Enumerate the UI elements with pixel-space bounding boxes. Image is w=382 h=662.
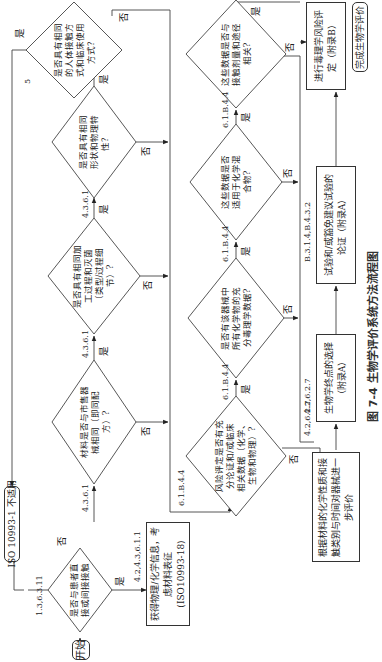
q-process-text: 是否具有相同加工过程和灭菌（类型/过程细节）? — [70, 244, 118, 308]
yes-contact-type: 是 — [14, 28, 26, 38]
ref-route: 6.1.B.4.4 — [220, 92, 232, 128]
iso-not-applicable-terminal: ISO 10993-1 不适用 — [4, 486, 20, 562]
ref-contact: 1.3,6.3.11 — [34, 575, 46, 616]
ref-contact-type: 5 — [22, 79, 34, 84]
q-contact-type-text: 是否具有相同的人体接触方式和临床使用方式？ — [54, 22, 96, 78]
flowchart-rotated: 开始 ISO 10993-1 不适用 获得物理/化学信息，考虑材料表征(ISO1… — [0, 0, 382, 662]
q-geometry-text: 是否具有相同形状和物理特性？ — [76, 112, 112, 172]
ref-endpoints: 4.2,6.2.7 — [302, 378, 314, 414]
no-mixture: 否 — [282, 168, 294, 178]
no-tox: 否 — [282, 304, 294, 314]
start-terminal: 开始 — [72, 640, 90, 660]
start-label: 开始 — [75, 640, 87, 660]
q-risk-text: 风险评定是否有充分论证和/或临床相关数据（化学、生物和物理）? — [210, 420, 262, 492]
iso-not-applicable-label: ISO 10993-1 不适用 — [6, 480, 18, 567]
yes-mixture: 是 — [240, 112, 252, 122]
q-mixture-text: 这些数据是否适用于化学混合物? — [222, 152, 250, 212]
ref-tox: 6.1.B.4.4 — [220, 364, 232, 400]
yes-geometry: 是 — [98, 74, 110, 84]
yes-tox: 是 — [240, 246, 252, 256]
tox-risk-box: 进行毒理学风险评定（附录B） — [306, 2, 346, 90]
yes-contact: 是 — [114, 576, 126, 586]
no-contact-type: 否 — [118, 12, 130, 22]
ref-tests: B.3.1.4,B.4.3.2 — [302, 202, 314, 262]
no-material: 否 — [140, 426, 152, 436]
further-evaluation-box: 根据材料的化学性质和接触类别与时间对器械进一步评价 — [312, 452, 360, 562]
no-risk: 否 — [288, 454, 300, 464]
yes-process: 是 — [98, 204, 110, 214]
endpoints-label: 生物学终点的选择（附录A） — [323, 339, 349, 417]
no-route: 否 — [284, 42, 296, 52]
yes-risk: 是 — [240, 384, 252, 394]
no-process: 否 — [142, 280, 154, 290]
yes-material: 是 — [98, 346, 110, 356]
end-label: 完成生物学评价 — [354, 6, 366, 69]
ref-risk: 6.1.B.4.4 — [176, 470, 188, 506]
ref-geometry: 4.3.6.1 — [80, 190, 92, 218]
q-material-text: 材料是否与市售器械相同（即同配方）? — [76, 386, 114, 458]
tests-box: 试验和/或豁免建议试验的论证（附录A） — [316, 166, 356, 284]
end-terminal: 完成生物学评价 — [352, 2, 368, 72]
ref-get-info: 4.2,4.3,6.1.1 — [132, 531, 144, 582]
ref-mixture: 6.1.B.4.4 — [220, 226, 232, 262]
q-contact-text: 是否与患者直接或间接接触 — [66, 562, 94, 618]
figure-caption: 图 7-4 生物学评价系统方法流程图 — [364, 251, 380, 422]
no-contact: 否 — [56, 536, 68, 546]
get-info-box: 获得物理/化学信息，考虑材料表征(ISO10993-18) — [146, 522, 190, 626]
ref-material: 4.3.6.1 — [80, 484, 92, 512]
tox-risk-label: 进行毒理学风险评定（附录B） — [313, 7, 339, 85]
figure-page: 开始 ISO 10993-1 不适用 获得物理/化学信息，考虑材料表征(ISO1… — [0, 0, 382, 662]
flow-lines — [0, 0, 382, 662]
tests-label: 试验和/或豁免建议试验的论证（附录A） — [323, 171, 349, 279]
further-evaluation-label: 根据材料的化学性质和接触类别与时间对器械进一步评价 — [317, 457, 356, 557]
yes-route: 是 — [250, 6, 262, 16]
no-geometry: 否 — [140, 146, 152, 156]
ref-process: 4.3.6.1 — [80, 330, 92, 358]
endpoints-box: 生物学终点的选择（附录A） — [316, 334, 356, 422]
q-route-text: 这些数据是否与接触剂量和途径相关? — [218, 22, 254, 86]
get-info-label: 获得物理/化学信息，考虑材料表征(ISO10993-18) — [149, 527, 188, 621]
q-tox-text: 是否有该器械中所有化学物的充分毒理学数据? — [214, 286, 258, 350]
